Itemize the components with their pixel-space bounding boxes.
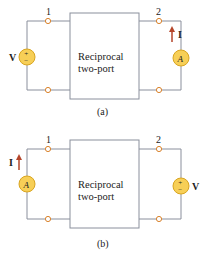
box-label-line2-a: two-port <box>78 63 114 74</box>
current-label-a: I <box>178 29 182 40</box>
terminal-2-top-a <box>156 18 161 23</box>
terminal-2-top-b <box>156 146 161 151</box>
terminal-1-bottom-b <box>45 216 50 221</box>
ammeter-icon: A <box>173 50 189 66</box>
port2-label-a: 2 <box>156 6 161 17</box>
terminal-1-bottom-a <box>45 87 50 92</box>
port1-label-a: 1 <box>46 6 51 17</box>
circuit-b: Reciprocal two-port 1 2 A I + − V (b) <box>9 134 200 250</box>
box-label-line1-b: Reciprocal <box>78 179 124 190</box>
box-label-line1-a: Reciprocal <box>78 51 124 62</box>
caption-a: (a) <box>97 106 108 118</box>
svg-text:−: − <box>24 57 28 65</box>
terminal-2-bottom-a <box>156 87 161 92</box>
voltage-label-b: V <box>192 181 200 192</box>
terminal-2-bottom-b <box>156 216 161 221</box>
svg-text:A: A <box>23 180 30 190</box>
terminal-1-top-a <box>45 18 50 23</box>
port2-label-b: 2 <box>156 134 161 145</box>
ammeter-icon: A <box>19 176 35 192</box>
port1-label-b: 1 <box>46 134 51 145</box>
current-arrow-icon <box>16 154 22 170</box>
terminal-1-top-b <box>45 146 50 151</box>
caption-b: (b) <box>97 238 109 250</box>
voltage-source-icon: + − <box>173 178 189 194</box>
current-label-b: I <box>9 157 13 168</box>
svg-text:−: − <box>178 186 182 194</box>
voltage-source-icon: + − <box>19 49 35 65</box>
current-arrow-icon <box>169 26 175 42</box>
svg-text:A: A <box>177 54 184 64</box>
reciprocity-diagram: Reciprocal two-port 1 2 + − V A I (a) <box>0 0 206 253</box>
voltage-label-a: V <box>9 52 17 63</box>
circuit-a: Reciprocal two-port 1 2 + − V A I (a) <box>9 6 189 118</box>
box-label-line2-b: two-port <box>78 191 114 202</box>
